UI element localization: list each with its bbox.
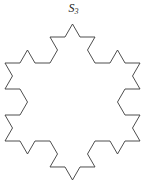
koch-snowflake-outline bbox=[5, 24, 140, 180]
koch-snowflake-figure: S3 bbox=[0, 0, 147, 187]
koch-snowflake-svg bbox=[0, 0, 147, 187]
